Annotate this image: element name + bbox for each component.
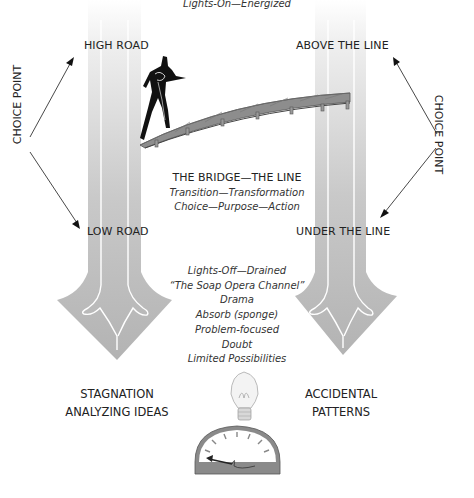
high-road-label: HIGH ROAD <box>84 39 149 52</box>
under-the-line-label: UNDER THE LINE <box>296 225 390 238</box>
lights-off-item: Lights-Off—Drained <box>188 264 286 279</box>
right-down-arrow-icon <box>295 0 397 355</box>
outcome-line: ACCIDENTAL <box>305 385 377 403</box>
lights-off-item: Limited Possibilities <box>188 352 287 367</box>
bridge-title: THE BRIDGE—THE LINE <box>173 171 302 186</box>
left-down-arrow-icon <box>57 0 172 360</box>
lights-off-list: Lights-Off—Drained “The Soap Opera Chann… <box>169 264 304 367</box>
bridge-line: Choice—Purpose—Action <box>174 200 300 215</box>
left-choice-point-label: CHOICE POINT <box>11 65 24 144</box>
diagram-graphics <box>0 0 474 498</box>
outcome-line: STAGNATION <box>80 385 154 403</box>
right-choice-arrows-icon <box>380 57 437 218</box>
above-the-line-label: ABOVE THE LINE <box>296 39 389 52</box>
lightbulb-icon <box>231 372 258 420</box>
lights-off-item: Absorb (sponge) <box>196 308 278 323</box>
left-choice-arrows-icon <box>30 57 80 229</box>
outcome-line: PATTERNS <box>312 403 370 421</box>
lights-off-item: Doubt <box>222 338 252 353</box>
gauge-icon <box>195 426 280 474</box>
low-road-label: LOW ROAD <box>87 225 149 238</box>
lights-off-item: “The Soap Opera Channel” <box>169 279 304 294</box>
top-caption: Lights-On—Energized <box>183 0 291 9</box>
right-choice-point-label: CHOICE POINT <box>432 95 445 174</box>
bridge-line: Transition—Transformation <box>170 186 305 201</box>
outcome-line: ANALYZING IDEAS <box>65 403 168 421</box>
left-outcome: STAGNATION ANALYZING IDEAS <box>65 385 168 421</box>
bridge-text: THE BRIDGE—THE LINE Transition—Transform… <box>170 171 305 215</box>
right-outcome: ACCIDENTAL PATTERNS <box>305 385 377 421</box>
lights-off-item: Drama <box>220 293 254 308</box>
lights-off-item: Problem-focused <box>195 323 279 338</box>
